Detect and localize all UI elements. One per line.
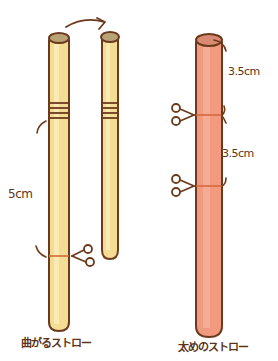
measurement-label-top: 3.5cm [228,66,260,77]
straw-diagram [0,0,278,361]
measurement-label-middle: 3.5cm [222,148,254,159]
measurement-label-5cm: 5cm [8,188,32,200]
straw-opening [196,34,222,46]
measurement-bracket-5cm [36,121,46,257]
caption-bendy-straw: 曲がるストロー [21,338,91,349]
bendy-straw-full [48,33,70,331]
straw-opening [49,33,69,43]
straw-opening [101,32,119,42]
bendy-straw-cut-piece [101,32,119,259]
scissors-icon [72,245,94,266]
scissors-icon [172,175,194,196]
caption-thick-straw: 太めのストロー [178,342,248,353]
thick-straw [196,34,222,337]
curved-arrow-icon [66,18,105,29]
scissors-icon [172,104,194,125]
